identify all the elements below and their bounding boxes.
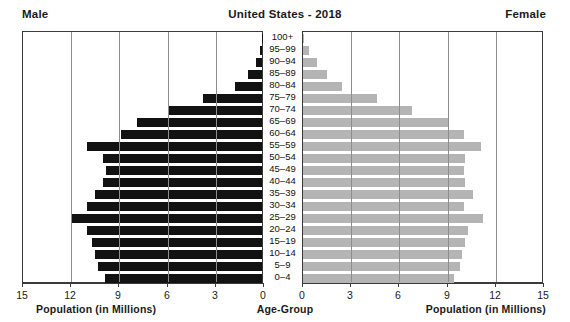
age-group-label: 55–59 xyxy=(263,140,302,150)
female-bar-row xyxy=(303,226,542,235)
age-group-label: 70–74 xyxy=(263,104,302,114)
female-bar-0–4 xyxy=(303,274,454,283)
age-group-label: 100+ xyxy=(263,32,302,42)
chart-header: Male United States - 2018 Female xyxy=(0,8,570,24)
female-panel xyxy=(302,31,543,283)
male-bar-row xyxy=(23,202,262,211)
female-bar-row xyxy=(303,274,542,283)
male-bar-50–54 xyxy=(103,154,262,163)
male-bar-20–24 xyxy=(87,226,262,235)
age-group-label: 65–69 xyxy=(263,116,302,126)
age-group-label: 15–19 xyxy=(263,236,302,246)
age-group-label: 0–4 xyxy=(263,272,302,282)
right-tick-9 xyxy=(447,283,448,287)
male-bar-95–99 xyxy=(260,46,262,55)
female-bar-55–59 xyxy=(303,142,481,151)
right-tick-label-12: 12 xyxy=(489,289,501,301)
male-bar-row xyxy=(23,190,262,199)
age-group-label: 5–9 xyxy=(263,260,302,270)
male-bar-65–69 xyxy=(137,118,262,127)
male-bar-row xyxy=(23,154,262,163)
age-group-label: 85–89 xyxy=(263,68,302,78)
female-bar-row xyxy=(303,46,542,55)
male-bar-row xyxy=(23,118,262,127)
plot-area: 100+95–9990–9485–8980–8475–7970–7465–696… xyxy=(22,31,543,283)
age-group-axis: 100+95–9990–9485–8980–8475–7970–7465–696… xyxy=(263,31,302,283)
right-axis-title: Population (in Millions) xyxy=(426,303,546,315)
female-bar-row xyxy=(303,154,542,163)
gridline-male-9 xyxy=(119,32,120,282)
male-bar-85–89 xyxy=(248,70,262,79)
male-bar-row xyxy=(23,214,262,223)
age-group-label: 45–49 xyxy=(263,164,302,174)
male-bar-80–84 xyxy=(235,82,262,91)
female-bar-row xyxy=(303,106,542,115)
male-bar-row xyxy=(23,94,262,103)
left-tick-label-9: 9 xyxy=(115,289,121,301)
left-tick-label-12: 12 xyxy=(64,289,76,301)
female-bar-row xyxy=(303,118,542,127)
male-bar-row xyxy=(23,166,262,175)
age-group-label: 20–24 xyxy=(263,224,302,234)
right-tick-12 xyxy=(495,283,496,287)
female-bar-row xyxy=(303,94,542,103)
left-tick-label-0: 0 xyxy=(260,289,266,301)
female-bar-70–74 xyxy=(303,106,412,115)
female-bar-10–14 xyxy=(303,250,462,259)
right-axis-line xyxy=(302,283,543,284)
age-group-label: 25–29 xyxy=(263,212,302,222)
female-bar-20–24 xyxy=(303,226,468,235)
male-bar-0–4 xyxy=(105,274,262,283)
population-pyramid-chart: Male United States - 2018 Female 100+95–… xyxy=(0,0,570,322)
female-bar-40–44 xyxy=(303,178,465,187)
female-bar-row xyxy=(303,238,542,247)
female-bar-85–89 xyxy=(303,70,327,79)
right-tick-6 xyxy=(398,283,399,287)
gridline-male-12 xyxy=(71,32,72,282)
male-bar-row xyxy=(23,274,262,283)
right-tick-label-15: 15 xyxy=(537,289,549,301)
male-bar-rows xyxy=(23,32,262,282)
female-bar-rows xyxy=(303,32,542,282)
male-bar-25–29 xyxy=(71,214,262,223)
female-bar-75–79 xyxy=(303,94,377,103)
left-tick-3 xyxy=(215,283,216,287)
left-tick-9 xyxy=(118,283,119,287)
left-tick-6 xyxy=(167,283,168,287)
female-bar-row xyxy=(303,262,542,271)
male-bar-15–19 xyxy=(92,238,262,247)
chart-title: United States - 2018 xyxy=(0,8,570,20)
female-bar-row xyxy=(303,190,542,199)
age-group-label: 75–79 xyxy=(263,92,302,102)
female-bar-row xyxy=(303,142,542,151)
left-tick-label-6: 6 xyxy=(164,289,170,301)
male-bar-40–44 xyxy=(103,178,262,187)
age-group-label: 60–64 xyxy=(263,128,302,138)
female-bar-row xyxy=(303,214,542,223)
male-bar-row xyxy=(23,70,262,79)
male-bar-60–64 xyxy=(121,130,262,139)
male-bar-30–34 xyxy=(87,202,262,211)
right-tick-3 xyxy=(350,283,351,287)
left-tick-12 xyxy=(70,283,71,287)
age-group-label: 90–94 xyxy=(263,56,302,66)
left-tick-15 xyxy=(22,283,23,287)
male-bar-row xyxy=(23,106,262,115)
left-tick-label-15: 15 xyxy=(16,289,28,301)
age-group-label: 50–54 xyxy=(263,152,302,162)
left-tick-0 xyxy=(263,283,264,287)
female-bar-25–29 xyxy=(303,214,483,223)
male-bar-75–79 xyxy=(203,94,262,103)
left-tick-label-3: 3 xyxy=(212,289,218,301)
female-legend-label: Female xyxy=(505,8,546,20)
age-group-label: 95–99 xyxy=(263,44,302,54)
female-bar-90–94 xyxy=(303,58,317,67)
male-bar-90–94 xyxy=(256,58,262,67)
male-bar-row xyxy=(23,262,262,271)
female-bar-30–34 xyxy=(303,202,464,211)
male-panel xyxy=(22,31,263,283)
male-bar-row xyxy=(23,58,262,67)
gridline-female-6 xyxy=(399,32,400,282)
female-bar-row xyxy=(303,178,542,187)
female-bar-100+ xyxy=(303,34,304,43)
